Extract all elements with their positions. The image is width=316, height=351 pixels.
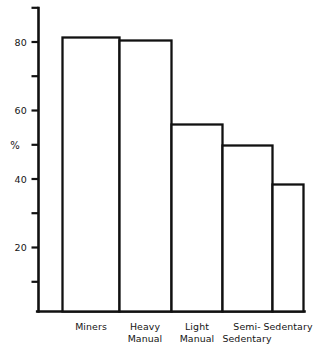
- x-label-heavy-manual-line2: Manual: [128, 333, 163, 344]
- x-label-semi-sedentary-line2: Sedentary: [222, 333, 271, 344]
- y-tick-label-80: 80: [15, 37, 28, 48]
- bar-miners: [63, 38, 120, 312]
- bar-sedentary: [273, 185, 304, 312]
- x-label-light-manual-line2: Manual: [180, 333, 215, 344]
- y-tick-label-40: 40: [15, 174, 28, 185]
- x-label-miners: Miners: [75, 321, 107, 332]
- x-label-heavy-manual-line1: Heavy: [130, 321, 161, 332]
- x-label-semi-sedentary-line1: Semi-: [233, 321, 260, 332]
- y-tick-label-60: 60: [15, 105, 28, 116]
- y-axis-unit-label: %: [10, 140, 20, 151]
- y-tick-label-20: 20: [15, 242, 28, 253]
- chart-canvas: 80 60 40 20 % Miners Heavy Manual Light …: [0, 0, 316, 351]
- bar-chart: 80 60 40 20 % Miners Heavy Manual Light …: [0, 0, 316, 351]
- bar-heavy-manual: [120, 41, 172, 312]
- x-label-sedentary: Sedentary: [263, 321, 312, 332]
- x-label-light-manual-line1: Light: [185, 321, 209, 332]
- bar-semi-sedentary: [223, 146, 273, 312]
- bar-light-manual: [172, 125, 223, 312]
